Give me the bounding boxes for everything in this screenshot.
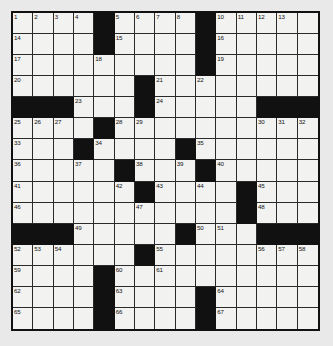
crossword-open-cell[interactable]: 13 (277, 13, 297, 34)
crossword-open-cell[interactable]: 14 (13, 34, 33, 55)
crossword-open-cell[interactable]: 40 (216, 160, 236, 181)
crossword-open-cell[interactable] (33, 34, 53, 55)
crossword-open-cell[interactable] (277, 76, 297, 97)
crossword-open-cell[interactable] (277, 160, 297, 181)
crossword-open-cell[interactable]: 37 (74, 160, 94, 181)
crossword-open-cell[interactable]: 24 (155, 97, 175, 118)
crossword-open-cell[interactable]: 58 (298, 245, 318, 266)
crossword-open-cell[interactable]: 59 (13, 266, 33, 287)
crossword-open-cell[interactable]: 67 (216, 308, 236, 329)
crossword-open-cell[interactable] (155, 118, 175, 139)
crossword-open-cell[interactable] (155, 160, 175, 181)
crossword-open-cell[interactable] (94, 203, 114, 224)
crossword-open-cell[interactable]: 12 (257, 13, 277, 34)
crossword-open-cell[interactable] (216, 182, 236, 203)
crossword-open-cell[interactable]: 26 (33, 118, 53, 139)
crossword-open-cell[interactable] (196, 118, 216, 139)
crossword-open-cell[interactable] (298, 55, 318, 76)
crossword-open-cell[interactable]: 43 (155, 182, 175, 203)
crossword-open-cell[interactable]: 15 (115, 34, 135, 55)
crossword-open-cell[interactable] (74, 76, 94, 97)
crossword-open-cell[interactable] (54, 139, 74, 160)
crossword-open-cell[interactable] (237, 139, 257, 160)
crossword-open-cell[interactable] (115, 224, 135, 245)
crossword-open-cell[interactable] (277, 203, 297, 224)
crossword-open-cell[interactable] (216, 97, 236, 118)
crossword-open-cell[interactable] (237, 34, 257, 55)
crossword-open-cell[interactable] (257, 55, 277, 76)
crossword-open-cell[interactable] (33, 266, 53, 287)
crossword-open-cell[interactable] (298, 266, 318, 287)
crossword-open-cell[interactable]: 56 (257, 245, 277, 266)
crossword-open-cell[interactable] (277, 308, 297, 329)
crossword-open-cell[interactable] (155, 55, 175, 76)
crossword-open-cell[interactable]: 18 (94, 55, 114, 76)
crossword-open-cell[interactable]: 36 (13, 160, 33, 181)
crossword-open-cell[interactable] (196, 266, 216, 287)
crossword-open-cell[interactable] (54, 266, 74, 287)
crossword-open-cell[interactable] (54, 160, 74, 181)
crossword-open-cell[interactable]: 21 (155, 76, 175, 97)
crossword-open-cell[interactable] (54, 308, 74, 329)
crossword-open-cell[interactable] (298, 13, 318, 34)
crossword-open-cell[interactable] (115, 97, 135, 118)
crossword-open-cell[interactable]: 55 (155, 245, 175, 266)
crossword-open-cell[interactable] (94, 245, 114, 266)
crossword-open-cell[interactable] (298, 160, 318, 181)
crossword-open-cell[interactable]: 66 (115, 308, 135, 329)
crossword-open-cell[interactable] (277, 266, 297, 287)
crossword-open-cell[interactable] (216, 266, 236, 287)
crossword-open-cell[interactable]: 65 (13, 308, 33, 329)
crossword-open-cell[interactable] (237, 308, 257, 329)
crossword-open-cell[interactable] (257, 266, 277, 287)
crossword-open-cell[interactable]: 54 (54, 245, 74, 266)
crossword-open-cell[interactable]: 50 (196, 224, 216, 245)
crossword-open-cell[interactable] (257, 287, 277, 308)
crossword-open-cell[interactable]: 2 (33, 13, 53, 34)
crossword-open-cell[interactable] (155, 139, 175, 160)
crossword-open-cell[interactable]: 41 (13, 182, 33, 203)
crossword-open-cell[interactable] (216, 139, 236, 160)
crossword-open-cell[interactable]: 27 (54, 118, 74, 139)
crossword-open-cell[interactable] (115, 245, 135, 266)
crossword-open-cell[interactable] (115, 139, 135, 160)
crossword-open-cell[interactable] (196, 245, 216, 266)
crossword-open-cell[interactable]: 57 (277, 245, 297, 266)
crossword-open-cell[interactable]: 1 (13, 13, 33, 34)
crossword-open-cell[interactable]: 17 (13, 55, 33, 76)
crossword-open-cell[interactable] (33, 182, 53, 203)
crossword-open-cell[interactable] (216, 76, 236, 97)
crossword-open-cell[interactable]: 32 (298, 118, 318, 139)
crossword-open-cell[interactable]: 23 (74, 97, 94, 118)
crossword-open-cell[interactable] (54, 182, 74, 203)
crossword-open-cell[interactable] (237, 76, 257, 97)
crossword-open-cell[interactable]: 35 (196, 139, 216, 160)
crossword-open-cell[interactable] (196, 203, 216, 224)
crossword-open-cell[interactable] (115, 203, 135, 224)
crossword-open-cell[interactable]: 38 (135, 160, 155, 181)
crossword-open-cell[interactable] (298, 34, 318, 55)
crossword-open-cell[interactable] (94, 224, 114, 245)
crossword-open-cell[interactable] (176, 97, 196, 118)
crossword-open-cell[interactable] (298, 203, 318, 224)
crossword-open-cell[interactable] (74, 287, 94, 308)
crossword-open-cell[interactable] (33, 308, 53, 329)
crossword-open-cell[interactable] (176, 76, 196, 97)
crossword-open-cell[interactable] (176, 287, 196, 308)
crossword-open-cell[interactable]: 30 (257, 118, 277, 139)
crossword-open-cell[interactable]: 25 (13, 118, 33, 139)
crossword-open-cell[interactable]: 62 (13, 287, 33, 308)
crossword-open-cell[interactable]: 34 (94, 139, 114, 160)
crossword-open-cell[interactable] (115, 55, 135, 76)
crossword-open-cell[interactable]: 16 (216, 34, 236, 55)
crossword-open-cell[interactable] (176, 308, 196, 329)
crossword-open-cell[interactable]: 6 (135, 13, 155, 34)
crossword-open-cell[interactable]: 33 (13, 139, 33, 160)
crossword-open-cell[interactable] (298, 76, 318, 97)
crossword-open-cell[interactable] (135, 266, 155, 287)
crossword-grid[interactable]: 1234567810111213141516171819202122232425… (13, 13, 318, 329)
crossword-open-cell[interactable]: 45 (257, 182, 277, 203)
crossword-open-cell[interactable] (74, 266, 94, 287)
crossword-open-cell[interactable] (135, 224, 155, 245)
crossword-open-cell[interactable] (155, 308, 175, 329)
